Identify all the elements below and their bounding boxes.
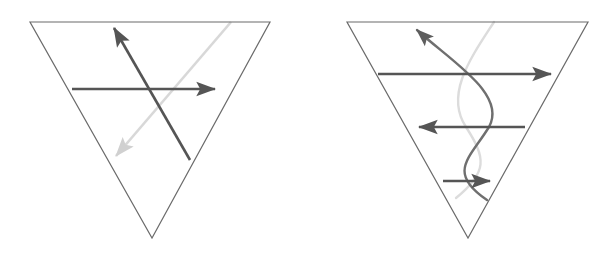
left-panel	[30, 22, 270, 238]
right-dark-sine-curve	[417, 30, 493, 200]
left-inverted-triangle	[30, 22, 270, 238]
right-light-sine-curve	[456, 22, 494, 198]
left-diagonal-up-left-arrow	[114, 28, 190, 160]
right-panel	[347, 22, 588, 238]
diagram-canvas	[0, 0, 614, 253]
figure-root	[0, 0, 614, 253]
